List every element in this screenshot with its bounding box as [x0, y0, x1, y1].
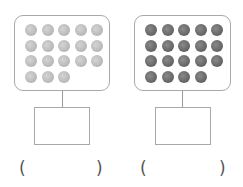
group-left: ( ): [0, 0, 121, 187]
ball-icon: [25, 24, 37, 36]
ball-icon: [162, 40, 174, 52]
answer-box-right[interactable]: [155, 107, 211, 145]
answer-box-left[interactable]: [34, 107, 90, 145]
paren-open-right: (: [140, 160, 147, 177]
ball-frame-left: [14, 15, 110, 91]
ball-icon: [145, 40, 157, 52]
ball-icon: [75, 40, 87, 52]
ball-icon: [178, 71, 190, 83]
ball-icon: [25, 71, 37, 83]
ball-icon: [25, 40, 37, 52]
ball-icon: [145, 55, 157, 67]
connector-line-left: [62, 91, 63, 107]
ball-icon: [145, 71, 157, 83]
ball-icon: [42, 55, 54, 67]
connector-line-right: [182, 91, 183, 107]
ball-icon: [42, 40, 54, 52]
ball-icon: [58, 55, 70, 67]
ball-icon: [211, 55, 223, 67]
paren-open-left: (: [19, 160, 26, 177]
ball-icon: [162, 71, 174, 83]
ball-icon: [42, 71, 54, 83]
ball-icon: [211, 40, 223, 52]
ball-icon: [25, 55, 37, 67]
ball-icon: [178, 55, 190, 67]
ball-icon: [178, 40, 190, 52]
ball-icon: [162, 55, 174, 67]
ball-grid-right: [145, 24, 223, 83]
ball-icon: [91, 24, 103, 36]
ball-icon: [58, 40, 70, 52]
ball-icon: [75, 55, 87, 67]
ball-icon: [91, 55, 103, 67]
ball-frame-right: [134, 15, 231, 91]
ball-icon: [195, 71, 207, 83]
ball-icon: [162, 24, 174, 36]
ball-icon: [42, 24, 54, 36]
ball-icon: [195, 55, 207, 67]
ball-icon: [58, 24, 70, 36]
ball-icon: [178, 24, 190, 36]
paren-close-right: ): [219, 160, 226, 177]
ball-icon: [195, 24, 207, 36]
ball-icon: [91, 40, 103, 52]
ball-icon: [58, 71, 70, 83]
ball-grid-left: [25, 24, 103, 83]
ball-icon: [145, 24, 157, 36]
group-right: ( ): [121, 0, 243, 187]
ball-icon: [195, 40, 207, 52]
ball-icon: [75, 24, 87, 36]
ball-icon: [211, 24, 223, 36]
paren-close-left: ): [96, 160, 103, 177]
